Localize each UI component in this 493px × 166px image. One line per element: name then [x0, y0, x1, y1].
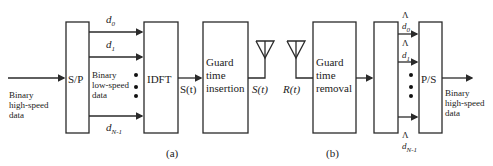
guard-removal-label: Guard time removal — [316, 56, 352, 95]
sp-label: S/P — [68, 73, 83, 85]
hat-dN1: Λ — [402, 130, 409, 140]
lowspeed-label: Binary low-speed data — [92, 70, 129, 100]
d0-label: d0 — [106, 13, 115, 30]
rx-sp-box — [374, 22, 398, 133]
st-label: S(t) — [180, 83, 197, 95]
d1-label: d1 — [106, 38, 115, 55]
guard-insertion-label: Guard time insertion — [206, 56, 245, 95]
input-label: Binary high-speed data — [9, 90, 49, 120]
dN1-label: dN-1 — [106, 121, 122, 138]
rx-dN1-label: dN-1 — [402, 141, 417, 155]
ps-label: P/S — [421, 73, 436, 85]
rx-d1-label: d1 — [402, 50, 410, 64]
idft-label: IDFT — [147, 73, 171, 85]
hat-d1: Λ — [402, 38, 409, 48]
tx-signal-label: S(t) — [252, 83, 268, 95]
caption-b: (b) — [326, 147, 339, 159]
rx-signal-label: R(t) — [283, 83, 300, 95]
rx-d0-label: d0 — [402, 21, 410, 35]
hat-d0: Λ — [402, 10, 409, 20]
caption-a: (a) — [166, 147, 178, 159]
output-label: Binary high-speed data — [445, 88, 485, 118]
